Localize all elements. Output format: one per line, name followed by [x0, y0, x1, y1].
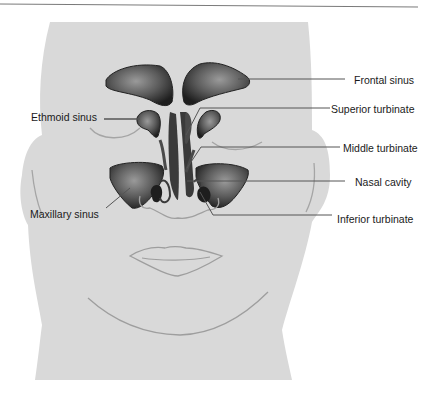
label-nasal-cavity: Nasal cavity — [355, 176, 412, 188]
header-rule — [0, 4, 418, 7]
label-maxillary-sinus: Maxillary sinus — [30, 208, 99, 220]
label-middle-turbinate: Middle turbinate — [343, 142, 418, 154]
sinus-diagram — [0, 0, 433, 398]
label-inferior-turbinate: Inferior turbinate — [337, 213, 413, 225]
label-superior-turbinate: Superior turbinate — [331, 103, 414, 115]
face-silhouette — [20, 22, 330, 380]
label-frontal-sinus: Frontal sinus — [354, 74, 414, 86]
label-ethmoid-sinus: Ethmoid sinus — [31, 111, 97, 123]
